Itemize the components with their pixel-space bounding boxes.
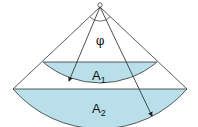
apex-point <box>98 3 102 7</box>
angle-label: φ <box>96 34 104 48</box>
angle-arc <box>90 17 110 21</box>
sector-diagram: φ A1 A2 <box>0 0 198 127</box>
